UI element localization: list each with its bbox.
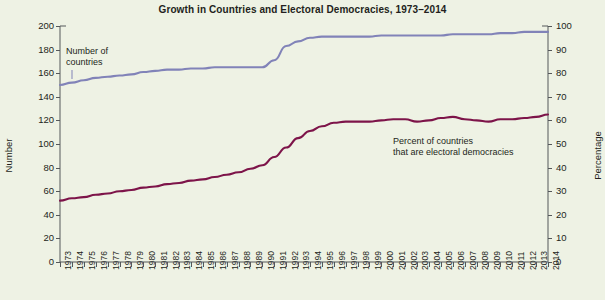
chart-container: Growth in Countries and Electoral Democr… xyxy=(0,0,605,300)
series-line-2 xyxy=(60,115,548,201)
plot-area xyxy=(0,0,605,300)
series-line-1 xyxy=(60,32,548,85)
